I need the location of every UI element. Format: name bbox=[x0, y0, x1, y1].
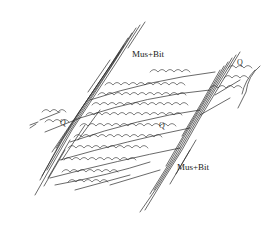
quartz-grains bbox=[42, 66, 252, 183]
mica-band-upper bbox=[35, 22, 145, 195]
foliation-planes bbox=[30, 72, 240, 190]
quartz-label-center: Q bbox=[159, 122, 165, 130]
fabric-sketch bbox=[0, 0, 280, 235]
mineral-label-mus-bit-upper: Mus+Bit bbox=[132, 50, 164, 59]
quartz-label-left: Q bbox=[60, 119, 66, 127]
quartz-label-top-right: Q bbox=[237, 59, 243, 67]
mineral-label-mus-bit-lower: Mus+Bit bbox=[177, 163, 209, 172]
microstructure-diagram: Mus+Bit Mus+Bit Q Q Q bbox=[0, 0, 280, 235]
